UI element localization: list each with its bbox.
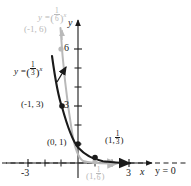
point-label-1-sixth: (1,16) (86, 166, 104, 182)
gray-exponent: x (64, 11, 67, 18)
point-1-third-open: (1, (105, 135, 115, 145)
black-curve-lhs: y = (14, 66, 26, 76)
x-tick-label-3: 3 (126, 168, 131, 178)
y-tick-label-3: 3 (64, 100, 69, 110)
point-label-neg1-6: (-1, 6) (24, 25, 47, 34)
curve-label-one-sixth: y =(16)x (38, 7, 66, 24)
x-axis-label: x (140, 167, 144, 177)
point-label-1-third: (1,13) (105, 130, 123, 146)
gray-curve-lhs: y = (38, 12, 50, 22)
asymptote-label: y = 0 (155, 166, 176, 176)
curve-label-one-third: y =(13)x (14, 61, 42, 78)
point-label-0-1: (0, 1) (47, 138, 67, 147)
exponential-functions-graph: y =(16)x (-1, 6) y =(13)x (-1, 3) (0, 1)… (0, 0, 191, 186)
point-1-sixth-open: (1, (86, 171, 96, 181)
black-point-1-third (92, 155, 98, 161)
y-tick-label-6: 6 (64, 43, 69, 53)
black-point-0-1 (75, 141, 81, 147)
point-1-third-close: ) (120, 135, 123, 145)
gray-point-neg1-6 (58, 46, 63, 51)
x-tick-label-neg3: -3 (21, 168, 29, 178)
black-exponent: x (40, 65, 43, 72)
point-label-neg1-3: (-1, 3) (21, 100, 44, 109)
y-axis-label: y (68, 18, 72, 28)
point-1-sixth-close: ) (101, 171, 104, 181)
